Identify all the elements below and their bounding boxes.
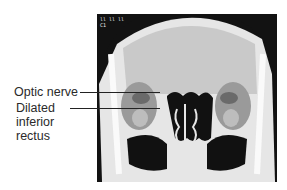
label-line-2: inferior [16, 115, 68, 129]
leader-line-optic-nerve [80, 92, 160, 93]
label-line-1: Dilated [16, 101, 68, 115]
scan-overlay-line-2: C1 [100, 22, 124, 28]
leader-line-inferior-rectus [70, 108, 160, 109]
ct-figure: ll ll ll C1 Optic nerve Dilated inferior… [0, 0, 287, 190]
label-optic-nerve: Optic nerve [6, 85, 78, 99]
scan-overlay-text: ll ll ll C1 [100, 16, 124, 28]
ct-scan-image [97, 14, 277, 182]
ct-scan-graphic [97, 14, 277, 182]
label-dilated-inferior-rectus: Dilated inferior rectus [16, 101, 68, 143]
label-line-3: rectus [16, 129, 68, 143]
